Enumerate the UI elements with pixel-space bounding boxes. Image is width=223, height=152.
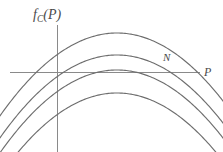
curve-group — [0, 33, 223, 152]
y-axis-label-argument: (P) — [43, 7, 61, 22]
x-axis-label: P — [204, 66, 211, 78]
curve-3 — [0, 70, 223, 152]
curve-1 — [0, 33, 223, 152]
figure-canvas: fC(P) N P — [0, 0, 223, 152]
y-axis-label: fC(P) — [33, 8, 61, 25]
curve-2 — [0, 55, 223, 152]
point-label-n: N — [163, 52, 170, 63]
